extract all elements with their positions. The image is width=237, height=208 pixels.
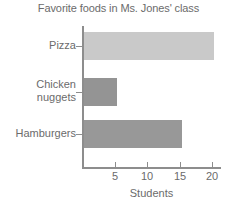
y-axis-tick-hamburgers [76,134,83,135]
x-axis-tick-label-5: 5 [103,170,127,183]
y-axis-tick-pizza [76,46,83,47]
x-axis-tick-label-15: 15 [168,170,192,183]
bar-pizza [84,32,214,60]
category-label-pizza: Pizza [0,39,76,52]
x-axis-line [82,167,221,169]
x-axis-tick-label-20: 20 [200,170,224,183]
category-label-hamburgers: Hamburgers [0,127,76,140]
bar-chart: Favorite foods in Ms. Jones' class Pizza… [0,0,237,208]
bar-hamburgers [84,120,182,148]
y-axis-tick-chicken-nuggets [76,92,83,93]
plot-area: Pizza Chicken nuggets Hamburgers 5 10 15… [0,0,237,208]
x-axis-tick-5 [115,162,116,168]
bar-chicken-nuggets [84,78,117,106]
x-axis-tick-20 [212,162,213,168]
x-axis-tick-label-10: 10 [135,170,159,183]
category-label-chicken-nuggets: Chicken nuggets [0,78,76,104]
x-axis-title: Students [82,187,221,200]
x-axis-tick-15 [180,162,181,168]
x-axis-tick-10 [147,162,148,168]
